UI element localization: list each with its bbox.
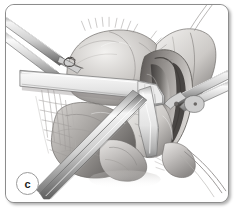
clamp-right-tissue <box>184 96 204 113</box>
figure-root: c <box>0 0 238 213</box>
panel-label-badge: c <box>16 172 39 195</box>
tissue-cast-shadow <box>89 170 160 188</box>
figure-card: c <box>5 4 229 203</box>
panel-label-text: c <box>24 178 30 190</box>
surgical-illustration <box>6 5 228 202</box>
